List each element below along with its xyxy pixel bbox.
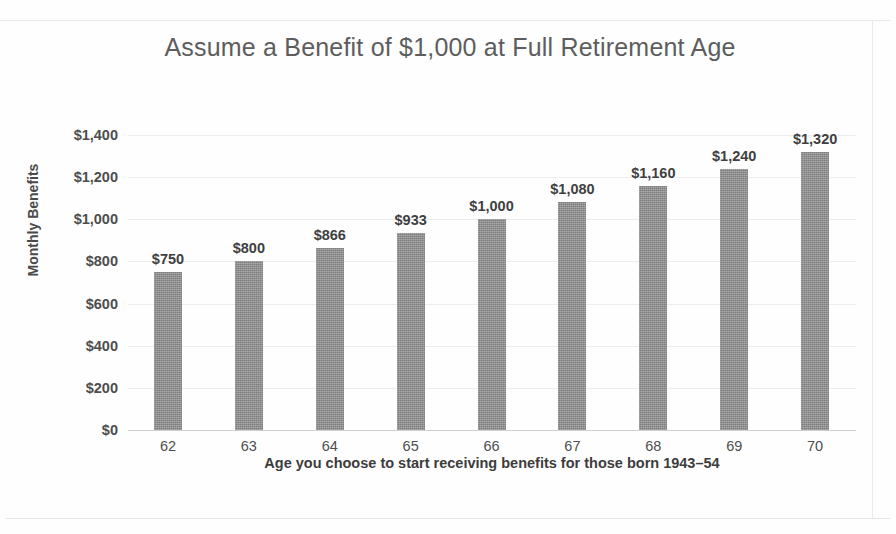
x-axis-tick-label: 65 (371, 438, 451, 454)
x-axis-tick-label: 63 (209, 438, 289, 454)
bar[interactable] (478, 219, 506, 430)
plot-area: $75062$80063$86664$93365$1,00066$1,08067… (128, 135, 856, 430)
bar-value-label: $800 (203, 240, 295, 256)
x-axis-title: Age you choose to start receiving benefi… (128, 455, 856, 471)
bar[interactable] (316, 248, 344, 430)
bar[interactable] (397, 233, 425, 430)
bar-value-label: $933 (365, 212, 457, 228)
x-axis-tick-label: 62 (128, 438, 208, 454)
y-axis-tick-label: $800 (28, 253, 118, 269)
bar[interactable] (235, 261, 263, 430)
bar[interactable] (639, 186, 667, 430)
y-axis-tick-label: $1,000 (28, 211, 118, 227)
bar-group: $1,32070 (775, 135, 856, 430)
page-border-top (0, 20, 890, 21)
y-axis-tick-label: $200 (28, 380, 118, 396)
bar[interactable] (558, 202, 586, 430)
bar-value-label: $1,000 (446, 198, 538, 214)
page-border-right (872, 20, 873, 518)
x-axis-tick-label: 66 (452, 438, 532, 454)
bar-group: $1,08067 (532, 135, 613, 430)
bar-group: $75062 (128, 135, 209, 430)
y-axis-tick-label: $400 (28, 338, 118, 354)
y-axis-tick-label: $0 (28, 422, 118, 438)
bar-value-label: $1,160 (607, 165, 699, 181)
chart-title: Assume a Benefit of $1,000 at Full Retir… (100, 30, 800, 65)
page-border-bottom (6, 518, 890, 519)
x-axis-tick-label: 64 (290, 438, 370, 454)
x-axis-tick-label: 70 (775, 438, 855, 454)
bar-group: $93365 (371, 135, 452, 430)
bar-group: $1,24069 (694, 135, 775, 430)
x-axis-tick-label: 68 (613, 438, 693, 454)
bar-group: $1,00066 (452, 135, 533, 430)
bar-value-label: $1,320 (769, 131, 861, 147)
bar[interactable] (801, 152, 829, 430)
y-axis-tick-label: $600 (28, 296, 118, 312)
bar[interactable] (154, 272, 182, 430)
bar[interactable] (720, 169, 748, 430)
y-axis-tick-label: $1,400 (28, 127, 118, 143)
y-axis-tick-labels: $1,400$1,200$1,000$800$600$400$200$0 (26, 135, 118, 430)
bar-group: $86664 (290, 135, 371, 430)
bar-group: $1,16068 (613, 135, 694, 430)
bar-value-label: $1,080 (526, 181, 618, 197)
bar-group: $80063 (209, 135, 290, 430)
x-axis-tick-label: 67 (532, 438, 612, 454)
bar-value-label: $866 (284, 227, 376, 243)
bar-value-label: $750 (122, 251, 214, 267)
x-axis-line (128, 430, 856, 431)
x-axis-tick-label: 69 (694, 438, 774, 454)
y-axis-tick-label: $1,200 (28, 169, 118, 185)
bar-value-label: $1,240 (688, 148, 780, 164)
